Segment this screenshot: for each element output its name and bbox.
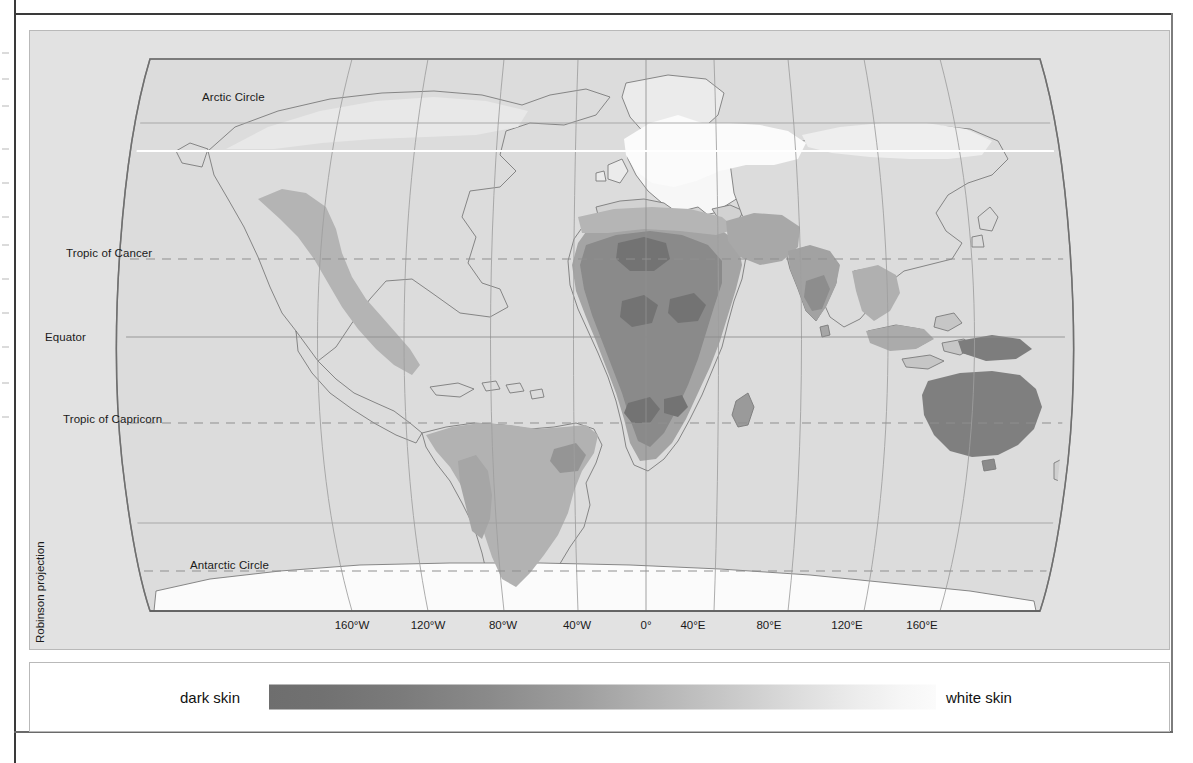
label-longitude-120W: 120°W xyxy=(411,619,446,631)
label-tropic-of-capricorn: Tropic of Capricorn xyxy=(63,413,162,425)
page-edge-text-fragments xyxy=(0,30,12,450)
label-antarctic-circle: Antarctic Circle xyxy=(190,559,269,571)
figure-skin-pigmentation-map: Arctic Circle Tropic of Cancer Equator T… xyxy=(29,30,1170,732)
label-tropic-of-cancer: Tropic of Cancer xyxy=(66,247,152,259)
land-tasmania xyxy=(982,459,996,471)
label-equator: Equator xyxy=(45,331,86,343)
label-longitude-80E: 80°E xyxy=(756,619,781,631)
label-longitude-80W: 80°W xyxy=(489,619,517,631)
page-right-rule xyxy=(1171,13,1173,732)
label-longitude-0: 0° xyxy=(641,619,652,631)
legend-label-white-skin: white skin xyxy=(946,689,1012,706)
page-top-rule xyxy=(14,13,1173,15)
label-longitude-160E: 160°E xyxy=(906,619,937,631)
page-left-rule xyxy=(14,0,16,763)
label-longitude-40W: 40°W xyxy=(563,619,591,631)
land-sri-lanka xyxy=(820,325,830,337)
legend-gradient-bar xyxy=(269,685,936,710)
legend-label-dark-skin: dark skin xyxy=(180,689,240,706)
projection-label: Robinson projection xyxy=(34,541,46,643)
legend-row: dark skin white skin xyxy=(30,663,1169,731)
label-longitude-40E: 40°E xyxy=(680,619,705,631)
legend-panel: dark skin white skin xyxy=(29,662,1170,732)
label-longitude-120E: 120°E xyxy=(831,619,862,631)
map-panel[interactable]: Arctic Circle Tropic of Cancer Equator T… xyxy=(29,30,1170,650)
world-map-svg xyxy=(30,31,1169,649)
label-arctic-circle: Arctic Circle xyxy=(202,91,265,103)
label-longitude-160W: 160°W xyxy=(335,619,370,631)
